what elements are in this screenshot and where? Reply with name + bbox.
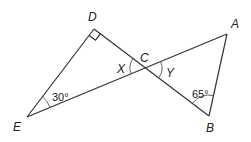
segment-EA — [27, 34, 227, 117]
label-B: B — [206, 121, 214, 135]
geometry-diagram: D A B E C X Y 30° 65° — [0, 0, 251, 142]
angle-arc-X — [130, 58, 133, 74]
label-E: E — [13, 120, 22, 134]
right-angle-marker — [89, 34, 100, 40]
angle-arc-E — [42, 97, 50, 108]
label-X: X — [116, 62, 126, 76]
label-Y: Y — [166, 66, 175, 80]
angle-arc-Y — [159, 62, 162, 78]
angle-value-B: 65° — [192, 88, 209, 100]
segment-DB — [94, 29, 209, 116]
label-C: C — [140, 51, 149, 65]
label-A: A — [230, 17, 239, 31]
angle-value-E: 30° — [52, 91, 69, 103]
label-D: D — [88, 10, 97, 24]
segment-AB — [209, 34, 227, 116]
segment-DE — [27, 29, 94, 117]
